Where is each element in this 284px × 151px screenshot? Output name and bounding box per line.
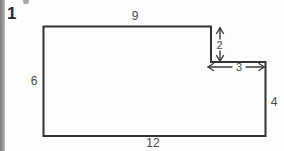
- shape-outline: [44, 27, 266, 137]
- dim-label-top: 9: [132, 9, 139, 23]
- dim-label-bottom: 12: [146, 136, 160, 150]
- worksheet-canvas: 1 9 6 12 4 2 3: [0, 0, 284, 151]
- dim-label-left: 6: [31, 74, 38, 88]
- dim-label-notch-depth: 2: [216, 39, 222, 51]
- geometry-diagram: 9 6 12 4 2 3: [0, 0, 284, 151]
- dim-label-notch-width: 3: [236, 61, 242, 73]
- dim-label-right: 4: [271, 95, 278, 109]
